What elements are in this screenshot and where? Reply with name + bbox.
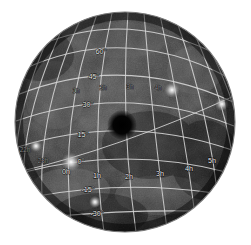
dark-spot-central bbox=[108, 111, 137, 140]
declination-label-45: 45° bbox=[89, 72, 100, 81]
ra-label-3h: 3h bbox=[156, 169, 164, 178]
bright-spot-east-upper bbox=[164, 82, 180, 98]
upper-ra-label-4h: 4h bbox=[154, 84, 162, 91]
declination-label-30: 30° bbox=[83, 100, 94, 109]
sphere-svg: 60° 45° 30° 15° 0° -15° -30° 0h 1h 2h 3h… bbox=[0, 0, 251, 245]
bright-spot-south-polar bbox=[89, 196, 101, 208]
ra-label-1h: 1h bbox=[93, 171, 101, 180]
upper-ra-label-3h: 3h bbox=[126, 83, 134, 90]
ra-label-22h: 22h bbox=[20, 146, 31, 153]
upper-ra-label-2h: 2h bbox=[99, 84, 107, 91]
bright-spot-west-upper bbox=[30, 140, 42, 152]
declination-label-15: 15° bbox=[78, 130, 89, 139]
declination-label-m30: -30° bbox=[90, 209, 103, 218]
ra-label-4h: 4h bbox=[185, 164, 193, 173]
ra-label-2h: 2h bbox=[125, 172, 133, 181]
ra-label-5h: 5h bbox=[208, 156, 216, 165]
sphere-image: 60° 45° 30° 15° 0° -15° -30° 0h 1h 2h 3h… bbox=[0, 0, 251, 245]
declination-label-m15: -15° bbox=[81, 185, 94, 194]
declination-label-0: 0° bbox=[78, 157, 85, 166]
declination-label-60: 60° bbox=[96, 47, 107, 56]
ra-label-0h: 0h bbox=[62, 167, 70, 176]
ra-label-23h: 23h bbox=[38, 157, 49, 164]
upper-ra-label-1h: 1h bbox=[72, 87, 80, 94]
sphere-map-canvas: 60° 45° 30° 15° 0° -15° -30° 0h 1h 2h 3h… bbox=[0, 0, 251, 245]
